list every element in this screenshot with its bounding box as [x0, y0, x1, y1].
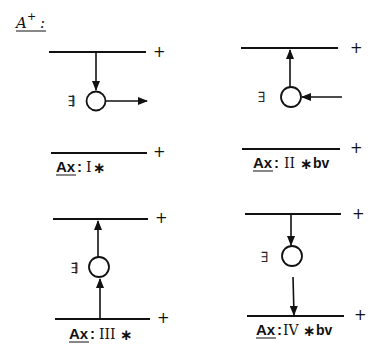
title-superscript: + [27, 10, 36, 23]
node-circle [282, 246, 302, 266]
bottom-plus: + [350, 139, 363, 157]
svg-text:∗: ∗ [300, 155, 313, 173]
double-barred-exists-icon: ∃ [68, 93, 76, 109]
svg-text::: : [274, 154, 279, 171]
diagram-title: A + : [14, 10, 46, 32]
node-circle [89, 257, 109, 277]
svg-text:∗: ∗ [93, 159, 106, 177]
top-plus: + [153, 43, 166, 61]
svg-text:Ax: Ax [69, 325, 89, 342]
axiom-label: Ax : II ∗ bv [253, 154, 330, 173]
svg-text::: : [77, 158, 82, 175]
bottom-plus: + [354, 306, 367, 324]
arrow-down-icon [293, 277, 294, 315]
svg-text:bv: bv [313, 155, 330, 171]
svg-text:∃: ∃ [68, 93, 76, 109]
axiom-label: Ax : III ∗ [69, 325, 133, 344]
title-letter: A [14, 14, 27, 32]
svg-text:IV: IV [283, 322, 300, 338]
svg-text:∗: ∗ [303, 322, 316, 340]
svg-text:bv: bv [316, 322, 333, 338]
axiom-diagram: A + : + ∃ + Ax : I ∗ + ∃ + [0, 0, 387, 356]
exists-icon: ∃ [258, 89, 266, 105]
top-plus: + [350, 39, 363, 57]
svg-text:III: III [99, 326, 116, 342]
top-plus: + [352, 205, 365, 223]
svg-text::: : [90, 325, 95, 342]
panel-III: + ∃ + Ax : III ∗ [53, 209, 170, 344]
panel-I: + ∃ + Ax : I ∗ [49, 43, 166, 177]
svg-text:Ax: Ax [56, 158, 76, 175]
node-circle [87, 92, 106, 111]
node-circle [281, 87, 301, 107]
panel-II: + ∃ + Ax : II ∗ bv [241, 39, 363, 173]
svg-text:∃: ∃ [71, 260, 79, 276]
svg-text:Ax: Ax [256, 321, 276, 338]
panel-IV: + ∃ + Ax : IV ∗ bv [245, 205, 367, 340]
svg-text::: : [277, 321, 282, 338]
top-plus: + [155, 209, 168, 227]
bottom-plus: + [153, 143, 166, 161]
axiom-label: Ax : IV ∗ bv [256, 321, 333, 340]
svg-text:I: I [86, 159, 92, 175]
svg-text:Ax: Ax [253, 154, 273, 171]
svg-text:II: II [284, 155, 295, 171]
title-colon: : [40, 14, 45, 32]
exists-icon: ∃ [261, 249, 269, 265]
bottom-plus: + [157, 309, 170, 327]
axiom-label: Ax : I ∗ [56, 158, 106, 177]
svg-text:∗: ∗ [120, 326, 133, 344]
double-barred-exists-icon: ∃ [71, 260, 79, 276]
